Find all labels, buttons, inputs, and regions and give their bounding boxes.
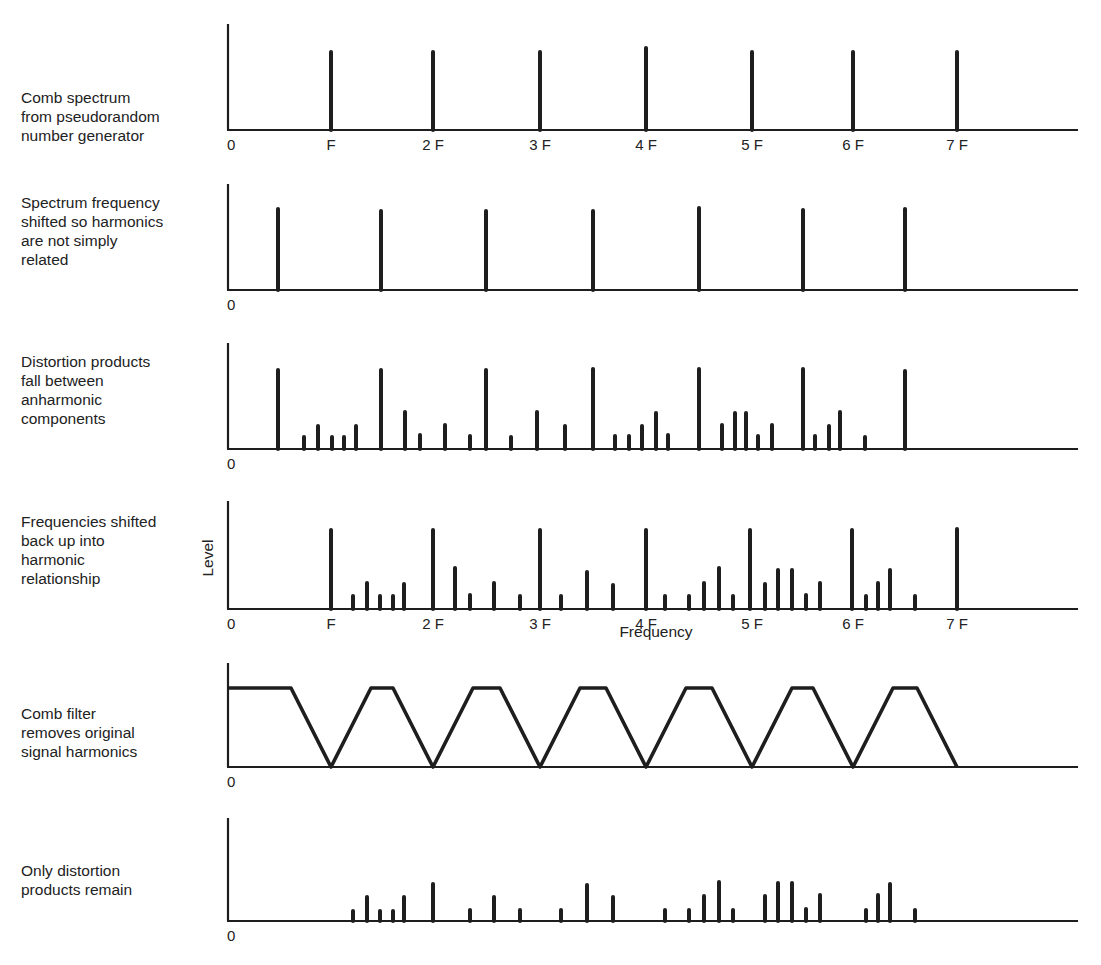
tick-label: 0 xyxy=(227,615,235,632)
panel-comb-spectrum: 0F2 F3 F4 F5 F6 F7 F xyxy=(227,24,1078,153)
tick-label: 5 F xyxy=(741,615,763,632)
tick-label: 0 xyxy=(227,773,235,790)
comb-filter-curve xyxy=(228,688,957,767)
spectrum-diagram: 0F2 F3 F4 F5 F6 F7 F 0 0 0F2 F3 F4 F5 F6… xyxy=(0,0,1101,965)
panel-shifted-back-harmonic: 0F2 F3 F4 F5 F6 F7 F xyxy=(227,501,1078,632)
tick-label: 2 F xyxy=(422,615,444,632)
tick-label: 0 xyxy=(227,296,235,313)
tick-label: 0 xyxy=(227,136,235,153)
panel-distortion-products: 0 xyxy=(227,343,1078,472)
tick-label: 4 F xyxy=(635,136,657,153)
tick-label: 0 xyxy=(227,455,235,472)
tick-label: 7 F xyxy=(946,136,968,153)
y-axis-label: Level xyxy=(199,539,216,576)
panel-comb-filter: 0 xyxy=(227,663,1078,790)
tick-label: 6 F xyxy=(842,615,864,632)
tick-label: 7 F xyxy=(946,615,968,632)
tick-label: 3 F xyxy=(529,136,551,153)
panel-only-distortion-remain: 0 xyxy=(227,818,1078,944)
tick-label: 3 F xyxy=(529,615,551,632)
x-axis-label: Frequency xyxy=(619,623,692,640)
tick-label: 6 F xyxy=(842,136,864,153)
tick-label: 5 F xyxy=(741,136,763,153)
tick-label: F xyxy=(326,136,335,153)
panel-frequency-shifted-spectrum: 0 xyxy=(227,184,1078,313)
tick-label: 0 xyxy=(227,927,235,944)
tick-label: F xyxy=(326,615,335,632)
tick-label: 2 F xyxy=(422,136,444,153)
